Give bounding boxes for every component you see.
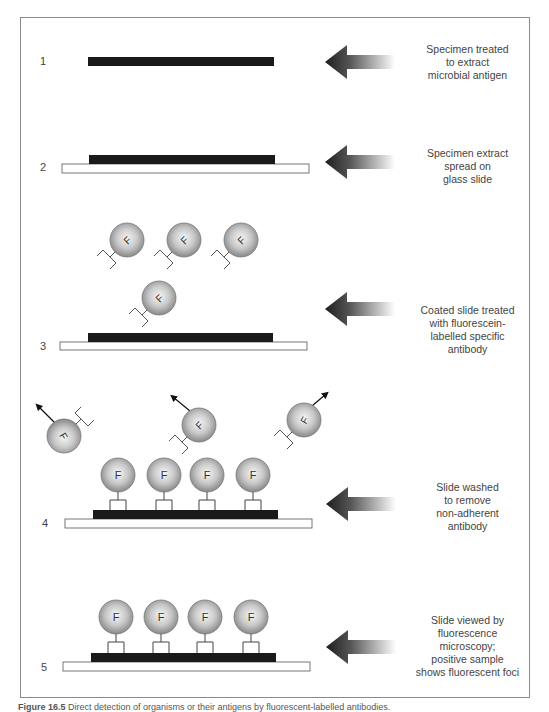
description-line: microbial antigen xyxy=(405,69,530,82)
svg-text:F: F xyxy=(113,611,120,623)
description-line: with fluorescein- xyxy=(405,317,530,330)
antigen-band xyxy=(91,653,276,662)
description-line: fluorescence xyxy=(405,627,530,640)
step-description-3: Coated slide treated with fluorescein- l… xyxy=(405,304,530,356)
step-2-graphic xyxy=(62,145,395,179)
svg-text:F: F xyxy=(248,611,255,623)
svg-text:F: F xyxy=(115,469,122,481)
bound-antibody: F xyxy=(101,458,135,511)
bound-antibody: F xyxy=(190,458,224,511)
glass-slide xyxy=(62,164,309,173)
glass-slide xyxy=(65,519,312,528)
description-line: microscopy; xyxy=(405,640,530,653)
glass-slide xyxy=(63,662,310,671)
caption-label: Figure 16.5 xyxy=(18,702,66,712)
process-arrow-icon xyxy=(325,45,395,79)
description-line: Slide washed xyxy=(405,481,530,494)
washed-antibody: F xyxy=(169,397,216,454)
figure-caption: Figure 16.5 Direct detection of organism… xyxy=(18,702,390,712)
step-description-5: Slide viewed by fluorescence microscopy;… xyxy=(405,614,530,679)
antigen-band xyxy=(93,510,278,519)
antigen-band xyxy=(88,333,273,342)
bound-antibody: F xyxy=(188,600,222,653)
labelled-antibody: F xyxy=(211,223,258,269)
bound-antibody: F xyxy=(236,458,270,511)
description-line: antibody xyxy=(405,520,530,533)
labelled-antibody: F xyxy=(97,223,144,269)
process-arrow-icon xyxy=(325,292,395,326)
step-4-graphic: F F F F F F F xyxy=(38,394,396,528)
step-5-graphic: F F F F xyxy=(63,600,396,671)
process-arrow-icon xyxy=(326,487,396,521)
description-line: glass slide xyxy=(405,173,530,186)
description-line: to extract xyxy=(405,56,530,69)
svg-text:F: F xyxy=(158,611,165,623)
step-number-5: 5 xyxy=(37,661,51,673)
bound-antibody: F xyxy=(144,600,178,653)
immunofluorescence-diagram: F F F F F F F F F F F xyxy=(0,0,549,712)
washed-antibody: F xyxy=(274,394,326,449)
description-line: Slide viewed by xyxy=(405,614,530,627)
step-description-4: Slide washed to remove non-adherent anti… xyxy=(405,481,530,533)
step-description-2: Specimen extract spread on glass slide xyxy=(405,147,530,186)
description-line: to remove xyxy=(405,494,530,507)
description-line: shows fluorescent foci xyxy=(405,666,530,679)
step-number-4: 4 xyxy=(38,517,52,529)
caption-text: Direct detection of organisms or their a… xyxy=(66,702,391,712)
step-3-graphic: F F F F xyxy=(60,223,395,350)
antigen-band xyxy=(88,57,274,66)
labelled-antibody: F xyxy=(154,223,201,269)
bound-antibody: F xyxy=(234,600,268,653)
bound-antibody: F xyxy=(99,600,133,653)
step-number-1: 1 xyxy=(36,55,50,67)
process-arrow-icon xyxy=(326,630,396,664)
process-arrow-icon xyxy=(325,145,395,179)
description-line: Coated slide treated xyxy=(405,304,530,317)
description-line: positive sample xyxy=(405,653,530,666)
step-number-2: 2 xyxy=(36,161,50,173)
svg-text:F: F xyxy=(161,469,168,481)
bound-antibody: F xyxy=(147,458,181,511)
description-line: antibody xyxy=(405,343,530,356)
step-1-graphic xyxy=(88,45,395,79)
step-number-3: 3 xyxy=(36,340,50,352)
description-line: labelled specific xyxy=(405,330,530,343)
svg-text:F: F xyxy=(202,611,209,623)
description-line: spread on xyxy=(405,160,530,173)
washed-antibody: F xyxy=(38,406,94,453)
description-line: Specimen treated xyxy=(405,43,530,56)
antigen-band xyxy=(89,155,275,164)
description-line: Specimen extract xyxy=(405,147,530,160)
description-line: non-adherent xyxy=(405,507,530,520)
step-description-1: Specimen treated to extract microbial an… xyxy=(405,43,530,82)
svg-text:F: F xyxy=(204,469,211,481)
glass-slide xyxy=(60,342,307,350)
labelled-antibody: F xyxy=(129,281,176,327)
svg-text:F: F xyxy=(250,469,257,481)
